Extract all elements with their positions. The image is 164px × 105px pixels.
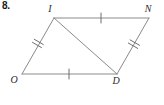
- parallelogram-diagram: I N O D: [0, 0, 164, 105]
- geometry-figure-container: 8. I N O D: [0, 0, 164, 105]
- vertex-label-I: I: [47, 3, 52, 14]
- vertex-label-D: D: [111, 75, 120, 86]
- diagonal-I-D: [54, 18, 117, 74]
- vertex-label-O: O: [10, 74, 17, 85]
- vertex-label-N: N: [144, 3, 153, 14]
